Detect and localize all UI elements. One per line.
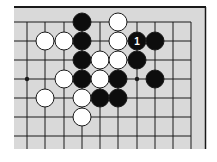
black-stone bbox=[73, 13, 91, 31]
move-number-label: 1 bbox=[134, 36, 140, 47]
white-stone bbox=[55, 32, 73, 50]
black-stone bbox=[146, 32, 164, 50]
black-stone bbox=[109, 70, 127, 88]
white-stone bbox=[91, 70, 109, 88]
white-stone bbox=[73, 89, 91, 107]
white-stone bbox=[109, 51, 127, 69]
white-stone bbox=[36, 89, 54, 107]
white-stone bbox=[109, 32, 127, 50]
star-point bbox=[25, 77, 29, 81]
white-stone bbox=[73, 108, 91, 126]
black-stone bbox=[128, 51, 146, 69]
white-stone bbox=[36, 32, 54, 50]
black-stone bbox=[146, 70, 164, 88]
black-stone bbox=[73, 32, 91, 50]
white-stone bbox=[91, 51, 109, 69]
white-stone bbox=[55, 70, 73, 88]
white-stone bbox=[109, 13, 127, 31]
black-stone bbox=[109, 89, 127, 107]
star-point bbox=[135, 77, 139, 81]
black-stone bbox=[73, 51, 91, 69]
black-stone bbox=[73, 70, 91, 88]
black-stone bbox=[91, 89, 109, 107]
black-stone: 1 bbox=[128, 32, 146, 50]
go-board: 1 bbox=[0, 0, 217, 162]
